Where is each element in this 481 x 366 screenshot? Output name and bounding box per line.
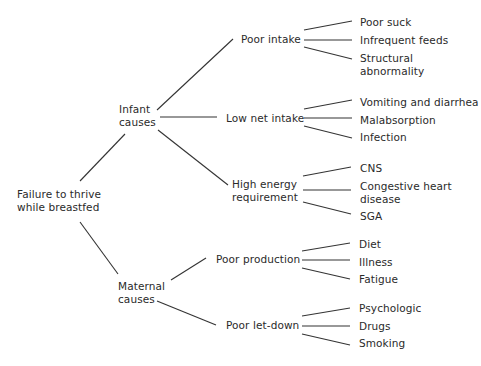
leaf-infrequent-feeds: Infrequent feeds	[360, 34, 448, 47]
node-root: Failure to thrive while breastfed	[17, 188, 101, 214]
edge-low-net-infection	[304, 126, 352, 138]
leaf-vomiting-diarrhea: Vomiting and diarrhea	[360, 96, 479, 109]
leaf-psychologic: Psychologic	[359, 302, 421, 315]
edge-infant-poor-intake	[157, 39, 233, 110]
node-root-line2: while breastfed	[17, 201, 101, 214]
leaf-diet: Diet	[359, 238, 381, 251]
node-maternal-line2: causes	[118, 293, 165, 306]
leaf-congestive-heart-disease: Congestive heart disease	[360, 180, 452, 206]
leaf-poor-suck: Poor suck	[360, 16, 411, 29]
leaf-structural-abnormality: Structural abnormality	[360, 52, 424, 78]
leaf-malabsorption: Malabsorption	[360, 114, 436, 127]
edge-maternal-poor-letdown	[157, 301, 216, 325]
edge-high-energy-sga	[303, 202, 351, 214]
node-high-energy-line1: High energy	[232, 178, 298, 191]
node-high-energy-line2: requirement	[232, 191, 298, 204]
leaf-fatigue: Fatigue	[359, 273, 398, 286]
leaf-infection: Infection	[360, 131, 407, 144]
leaf-smoking: Smoking	[359, 337, 405, 350]
edge-high-energy-cns	[303, 167, 351, 176]
edge-poor-production-diet	[302, 243, 350, 251]
node-poor-intake: Poor intake	[241, 33, 301, 46]
node-infant-causes: Infant causes	[119, 103, 156, 129]
node-infant-line2: causes	[119, 116, 156, 129]
edge-infant-high-energy	[158, 130, 228, 185]
node-poor-letdown: Poor let-down	[226, 319, 299, 332]
node-root-line1: Failure to thrive	[17, 188, 101, 201]
leaf-cns: CNS	[360, 162, 382, 175]
leaf-illness: Illness	[359, 256, 393, 269]
leaf-chd-line1: Congestive heart	[360, 180, 452, 193]
edge-letdown-psychologic	[302, 308, 350, 316]
leaf-drugs: Drugs	[359, 320, 391, 333]
leaf-structural-line1: Structural	[360, 52, 424, 65]
leaf-chd-line2: disease	[360, 193, 452, 206]
node-high-energy: High energy requirement	[232, 178, 298, 204]
edge-letdown-smoking	[302, 334, 350, 345]
edge-root-maternal	[80, 222, 118, 274]
edge-maternal-poor-production	[171, 258, 206, 280]
edge-root-infant	[80, 134, 125, 181]
node-poor-production: Poor production	[216, 253, 300, 266]
leaf-sga: SGA	[360, 210, 382, 223]
edge-poor-intake-structural	[304, 47, 352, 59]
leaf-structural-line2: abnormality	[360, 65, 424, 78]
node-maternal-causes: Maternal causes	[118, 280, 165, 306]
node-low-net-intake: Low net intake	[226, 112, 304, 125]
edge-poor-intake-poor-suck	[304, 21, 352, 30]
edge-poor-production-fatigue	[302, 268, 350, 279]
node-infant-line1: Infant	[119, 103, 156, 116]
node-maternal-line1: Maternal	[118, 280, 165, 293]
edge-low-net-vomiting	[304, 100, 352, 109]
